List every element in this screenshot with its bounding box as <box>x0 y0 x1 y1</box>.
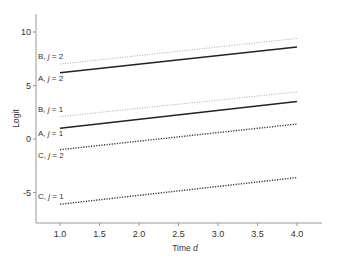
series-label: B, j = 1 <box>38 105 64 114</box>
series-lines: B, j = 2A, j = 2B, j = 1A, j = 1C, j = 2… <box>38 38 297 204</box>
series-label: A, j = 2 <box>38 74 64 83</box>
y-axis-ticks: 1050-5 <box>21 27 36 198</box>
x-axis-title-prefix: Time <box>172 243 193 253</box>
x-tick-label: 3.5 <box>251 229 264 239</box>
x-axis-ticks: 1.01.52.02.53.03.54.0 <box>54 223 304 239</box>
chart-canvas: 1050-5 1.01.52.02.53.03.54.0 Logit Time … <box>0 0 340 261</box>
x-tick-label: 3.0 <box>212 229 225 239</box>
x-axis-title-variable: d <box>193 243 198 253</box>
series-label: A, j = 1 <box>38 129 64 138</box>
logit-time-chart: 1050-5 1.01.52.02.53.03.54.0 Logit Time … <box>0 0 340 261</box>
y-tick-label: 5 <box>26 81 31 91</box>
series-line <box>60 178 297 205</box>
x-tick-label: 4.0 <box>291 229 304 239</box>
series-label: B, j = 2 <box>38 52 64 61</box>
series-label: C, j = 1 <box>38 192 64 201</box>
y-tick-label: 0 <box>26 134 31 144</box>
x-tick-label: 2.0 <box>133 229 146 239</box>
x-tick-label: 2.5 <box>172 229 185 239</box>
x-tick-label: 1.0 <box>54 229 67 239</box>
x-tick-label: 1.5 <box>93 229 106 239</box>
series-label: C, j = 2 <box>38 151 64 160</box>
y-axis-title: Logit <box>11 109 21 128</box>
y-tick-label: 10 <box>21 27 31 37</box>
series-line <box>60 124 297 150</box>
x-axis-title: Time d <box>172 243 198 253</box>
series-line <box>60 92 297 117</box>
y-tick-label: -5 <box>23 188 31 198</box>
series-line <box>60 102 297 129</box>
